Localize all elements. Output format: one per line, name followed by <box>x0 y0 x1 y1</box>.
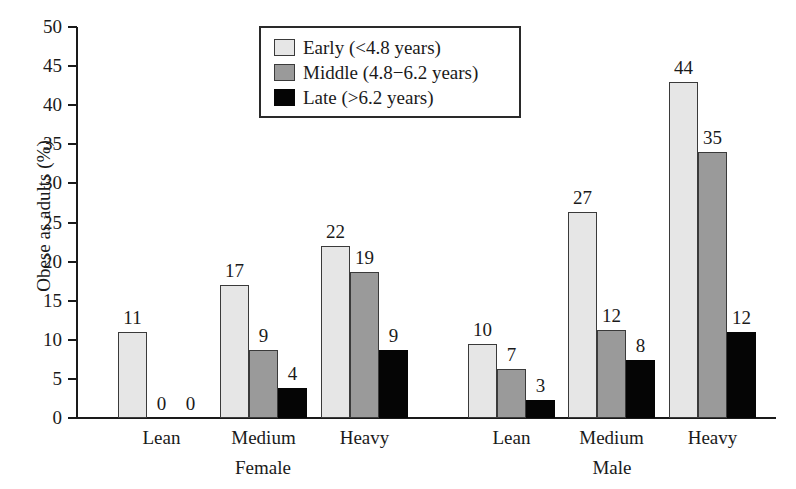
bar <box>278 388 307 418</box>
bar-value-label: 3 <box>516 376 565 395</box>
bar <box>626 360 655 418</box>
bar <box>727 332 756 418</box>
bar-value-label: 22 <box>311 222 360 241</box>
legend-item-middle: Middle (4.8−6.2 years) <box>274 60 519 85</box>
bar-value-label: 12 <box>587 306 636 325</box>
y-axis-tick <box>68 182 77 184</box>
legend-swatch-late-icon <box>274 89 295 106</box>
bar-value-label: 12 <box>717 308 766 327</box>
bar-value-label: 27 <box>558 188 607 207</box>
legend-label-early: Early (<4.8 years) <box>303 38 441 57</box>
bar-value-label: 10 <box>458 320 507 339</box>
bar <box>321 246 350 418</box>
legend-swatch-early-icon <box>274 39 295 56</box>
bar-value-label: 7 <box>487 345 536 364</box>
y-axis-tick <box>68 26 77 28</box>
y-axis-tick <box>68 222 77 224</box>
bar-chart: Obese as adults (%) 50454035302520151050… <box>0 0 796 489</box>
y-axis-tick-label: 50 <box>20 17 62 36</box>
legend-label-late: Late (>6.2 years) <box>303 88 433 107</box>
legend: Early (<4.8 years) Middle (4.8−6.2 years… <box>259 26 521 118</box>
x-axis-group-label: Male <box>542 458 682 477</box>
legend-item-early: Early (<4.8 years) <box>274 35 519 60</box>
y-axis-tick-label: 5 <box>20 369 62 388</box>
x-axis-group-label: Female <box>193 458 333 477</box>
y-axis-tick <box>68 378 77 380</box>
bar-value-label: 0 <box>166 394 215 413</box>
y-axis-tick <box>68 300 77 302</box>
y-axis-tick-label: 10 <box>20 330 62 349</box>
legend-item-late: Late (>6.2 years) <box>274 85 519 110</box>
bar-value-label: 4 <box>268 364 317 383</box>
y-axis-tick-label: 0 <box>20 408 62 427</box>
y-axis-tick-label: 40 <box>20 95 62 114</box>
y-axis-tick-label: 30 <box>20 173 62 192</box>
bar-value-label: 44 <box>659 58 708 77</box>
y-axis-tick <box>68 339 77 341</box>
bar <box>220 285 249 418</box>
bar-value-label: 17 <box>210 261 259 280</box>
bar <box>698 152 727 418</box>
bar-value-label: 8 <box>616 336 665 355</box>
y-axis-tick <box>68 65 77 67</box>
y-axis-tick-label: 20 <box>20 252 62 271</box>
x-axis-category-label: Heavy <box>305 428 425 447</box>
legend-label-middle: Middle (4.8−6.2 years) <box>303 63 478 82</box>
bar-value-label: 9 <box>369 326 418 345</box>
y-axis-tick <box>68 104 77 106</box>
bar <box>526 400 555 418</box>
bar <box>379 350 408 418</box>
y-axis-tick <box>68 143 77 145</box>
legend-swatch-middle-icon <box>274 64 295 81</box>
bar-value-label: 19 <box>340 248 389 267</box>
y-axis-tick-label: 15 <box>20 291 62 310</box>
y-axis-tick-label: 45 <box>20 56 62 75</box>
bar <box>249 350 278 418</box>
bar-value-label: 35 <box>688 128 737 147</box>
y-axis-tick-label: 25 <box>20 213 62 232</box>
x-axis-category-label: Heavy <box>653 428 773 447</box>
bar-value-label: 9 <box>239 326 288 345</box>
y-axis-tick <box>68 417 77 419</box>
bar-value-label: 11 <box>108 308 157 327</box>
y-axis-tick-label: 35 <box>20 134 62 153</box>
y-axis-tick <box>68 261 77 263</box>
